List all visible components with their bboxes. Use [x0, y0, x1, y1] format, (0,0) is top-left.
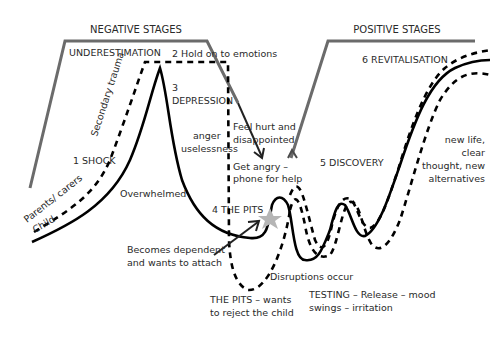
- stage-the-pits: 4 THE PITS: [212, 204, 263, 215]
- negative-stages-frame: [30, 41, 238, 188]
- get-angry-label-1: Get angry –: [233, 161, 288, 172]
- stage-hold-on: 2 Hold on to emotions: [172, 48, 277, 59]
- testing-label-2: swings – irritation: [309, 302, 393, 313]
- testing-label-1: TESTING – Release – mood: [308, 289, 436, 300]
- dependent-label-1: Becomes dependent: [127, 244, 225, 255]
- stage-depression: DEPRESSION: [172, 95, 233, 106]
- new-life-label-4: alternatives: [429, 173, 485, 184]
- dependent-label-2: and wants to attach: [127, 257, 222, 268]
- pits-reject-label-1: THE PITS – wants: [209, 294, 291, 305]
- uselessness-label: uselessness: [181, 143, 238, 154]
- feel-hurt-label-1: Feel hurt and: [233, 121, 296, 132]
- disruptions-label: Disruptions occur: [270, 271, 353, 282]
- stage-discovery: 5 DISCOVERY: [320, 157, 384, 168]
- stage-3-number: 3: [172, 82, 178, 93]
- new-life-label-1: new life,: [445, 134, 485, 145]
- stage-revitalisation: 6 REVITALISATION: [362, 54, 448, 65]
- stage-shock: 1 SHOCK: [73, 155, 116, 166]
- negative-stages-header: NEGATIVE STAGES: [90, 24, 182, 35]
- positive-stages-header: POSITIVE STAGES: [353, 24, 440, 35]
- anger-label: anger: [193, 130, 221, 141]
- feel-hurt-label-2: disappointed: [233, 134, 295, 145]
- emotional-stages-diagram: NEGATIVE STAGES POSITIVE STAGES UNDEREST…: [0, 0, 502, 337]
- overwhelmed-label: Overwhelmed: [120, 188, 186, 199]
- secondary-trauma-label: Secondary trauma: [88, 51, 126, 138]
- new-life-label-3: thought, new: [422, 160, 485, 171]
- get-angry-label-2: phone for help: [233, 173, 302, 184]
- new-life-label-2: clear: [462, 147, 486, 158]
- pits-reject-label-2: to reject the child: [210, 307, 294, 318]
